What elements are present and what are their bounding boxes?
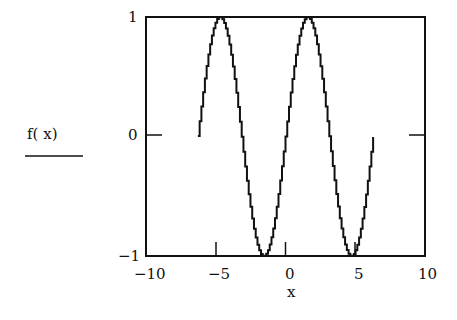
y-tick-label: 0 bbox=[128, 128, 138, 143]
y-axis-label: f( x) bbox=[27, 127, 57, 142]
x-tick-label: −5 bbox=[208, 267, 230, 282]
y-tick-label: −1 bbox=[118, 249, 140, 264]
x-axis-label: x bbox=[287, 285, 295, 300]
x-tick-label: 5 bbox=[354, 267, 364, 282]
x-tick-label: −10 bbox=[134, 267, 166, 282]
sine-curve bbox=[198, 17, 373, 256]
x-tick-label: 0 bbox=[285, 267, 295, 282]
y-tick-label: 1 bbox=[128, 10, 138, 25]
ticks bbox=[146, 135, 425, 256]
x-tick-label: 10 bbox=[418, 267, 437, 282]
